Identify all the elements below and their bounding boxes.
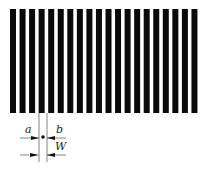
grating-diagram [0,0,200,173]
grating-stripe [29,9,35,113]
grating-stripe [191,9,197,113]
grating-stripe [20,9,26,113]
grating-stripes [10,9,197,113]
arrowheads [30,135,55,157]
grating-stripe [39,9,45,113]
center-dot-icon [41,135,45,139]
grating-stripe [77,9,83,113]
label-W: W [55,141,66,152]
label-a: a [25,124,32,135]
grating-stripe [48,9,54,113]
grating-stripe [163,9,169,113]
label-b: b [56,124,63,135]
grating-stripe [10,9,16,113]
grating-stripe [134,9,140,113]
arrow-W-left-icon [30,153,39,157]
grating-stripe [58,9,64,113]
grating-stripe [182,9,188,113]
arrow-W-right-icon [47,153,55,157]
arrow-b-icon [47,136,55,140]
grating-stripe [172,9,178,113]
grating-stripe [67,9,73,113]
grating-stripe [115,9,121,113]
arrow-a-icon [31,136,39,140]
grating-stripe [86,9,92,113]
grating-stripe [153,9,159,113]
grating-stripe [106,9,112,113]
grating-stripe [144,9,150,113]
grating-stripe [96,9,102,113]
grating-stripe [125,9,131,113]
